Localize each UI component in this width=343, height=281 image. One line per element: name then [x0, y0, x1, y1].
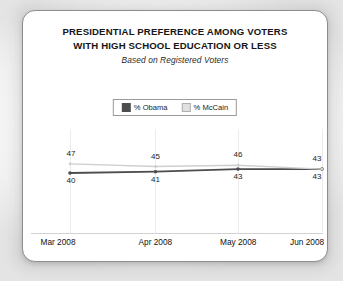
chart-value-label: 43 [313, 154, 322, 163]
chart-point [154, 170, 158, 174]
chart-value-label: 46 [234, 150, 243, 159]
x-axis-label: Mar 2008 [41, 237, 76, 247]
chart-x-axis-line [31, 233, 323, 234]
chart-value-label: 45 [151, 152, 160, 161]
chart-point [237, 164, 240, 167]
chart-title-line-1: PRESIDENTIAL PREFERENCE AMONG VOTERS [23, 25, 327, 39]
chart-line-obama [70, 169, 322, 173]
chart-x-axis-labels: Mar 2008Apr 2008May 2008Jun 2008 [23, 237, 328, 253]
chart-title-line-2: WITH HIGH SCHOOL EDUCATION OR LESS [23, 39, 327, 53]
legend-entry-obama: % Obama [122, 103, 168, 112]
screenshot-page: PRESIDENTIAL PREFERENCE AMONG VOTERS WIT… [0, 0, 343, 281]
chart-value-label: 47 [67, 149, 76, 158]
chart-point [154, 165, 157, 168]
chart-value-label: 43 [313, 172, 322, 181]
chart-point [69, 163, 72, 166]
x-axis-label: Apr 2008 [139, 237, 173, 247]
chart-subtitle: Based on Registered Voters [23, 55, 327, 65]
chart-card: PRESIDENTIAL PREFERENCE AMONG VOTERS WIT… [22, 10, 328, 262]
chart-point [68, 171, 72, 175]
x-axis-label: May 2008 [220, 237, 256, 247]
chart-plot-area: 4041434347454643 [23, 129, 328, 233]
legend-swatch-obama-icon [122, 103, 131, 112]
x-axis-label: Jun 2008 [290, 237, 324, 247]
chart-point [236, 167, 240, 171]
chart-legend: % Obama % McCain [113, 99, 237, 116]
chart-value-label: 40 [67, 176, 76, 185]
legend-label-mccain: % McCain [194, 103, 229, 112]
chart-point [321, 168, 324, 171]
chart-title-block: PRESIDENTIAL PREFERENCE AMONG VOTERS WIT… [23, 25, 327, 65]
legend-swatch-mccain-icon [182, 103, 191, 112]
chart-value-label: 41 [151, 175, 160, 184]
legend-label-obama: % Obama [134, 103, 168, 112]
chart-value-label: 43 [234, 172, 243, 181]
legend-entry-mccain: % McCain [182, 103, 229, 112]
